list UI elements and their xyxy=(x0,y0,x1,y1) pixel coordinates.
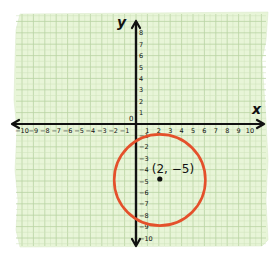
x-tick-label: 6 xyxy=(202,127,206,135)
x-tick-label: −6 xyxy=(63,127,73,135)
x-tick-label: 5 xyxy=(191,127,195,135)
y-tick-label: 6 xyxy=(139,52,143,60)
x-tick-label: 8 xyxy=(225,127,229,135)
x-tick-label: −1 xyxy=(120,127,130,135)
y-tick-label: −8 xyxy=(139,212,149,220)
x-tick-label: −7 xyxy=(51,127,61,135)
y-tick-label: −4 xyxy=(139,166,149,174)
x-tick-label: 3 xyxy=(168,127,172,135)
x-tick-label: −3 xyxy=(97,127,107,135)
x-tick-label: −9 xyxy=(29,127,39,135)
y-tick-label: 8 xyxy=(139,29,143,37)
x-tick-label: −10 xyxy=(15,127,29,135)
x-axis-label: x xyxy=(251,101,262,117)
y-tick-label: −7 xyxy=(139,200,149,208)
y-tick-label: 5 xyxy=(139,64,143,72)
x-tick-label: 9 xyxy=(237,127,241,135)
origin-label: 0 xyxy=(129,115,133,123)
point-label: (2, −5) xyxy=(152,162,194,176)
y-tick-label: 1 xyxy=(139,109,143,117)
x-tick-label: −4 xyxy=(86,127,96,135)
x-tick-label: 4 xyxy=(180,127,184,135)
center-point xyxy=(157,176,162,181)
x-tick-label: −8 xyxy=(40,127,50,135)
x-tick-label: −5 xyxy=(74,127,84,135)
y-tick-label: 3 xyxy=(139,86,143,94)
y-axis-label: y xyxy=(117,14,127,30)
y-tick-label: −10 xyxy=(139,235,153,243)
y-tick-label: −5 xyxy=(139,178,149,186)
x-tick-label: 7 xyxy=(214,127,218,135)
graph-figure: −10−9−8−7−6−5−4−3−2−11234567891012345678… xyxy=(0,0,274,259)
y-tick-label: −6 xyxy=(139,189,149,197)
y-tick-label: −2 xyxy=(139,143,149,151)
y-tick-label: −3 xyxy=(139,155,149,163)
y-tick-label: 7 xyxy=(139,41,143,49)
x-tick-label: 10 xyxy=(246,127,254,135)
x-tick-label: −2 xyxy=(108,127,118,135)
y-tick-label: 2 xyxy=(139,98,143,106)
y-tick-label: 4 xyxy=(139,75,143,83)
